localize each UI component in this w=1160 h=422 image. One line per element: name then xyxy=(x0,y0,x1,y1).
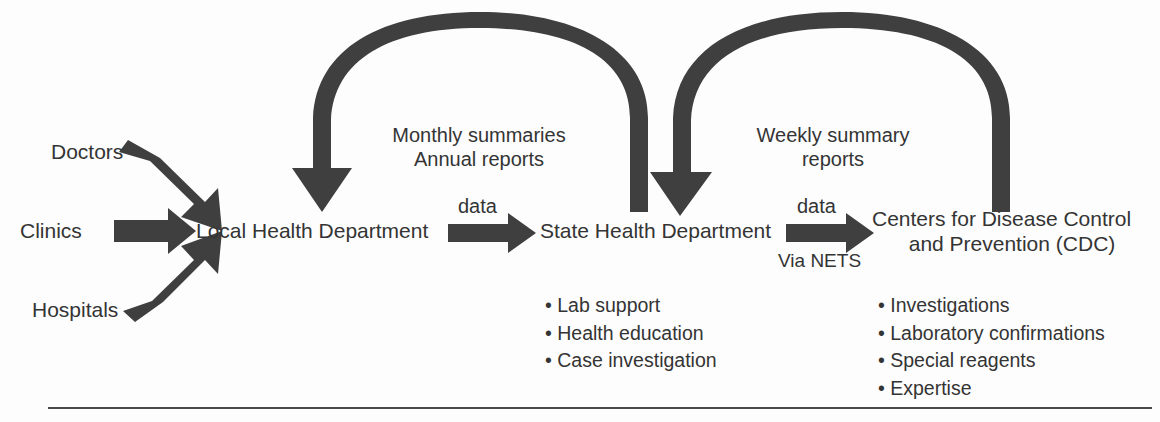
bullet-glyph: • xyxy=(878,377,885,399)
arc-label-cdc-to-state-line2: reports xyxy=(738,148,928,172)
flow-label-data-state-cdc: data xyxy=(797,195,836,219)
list-item-label: Laboratory confirmations xyxy=(890,322,1105,344)
list-item-label: Case investigation xyxy=(557,349,716,371)
node-label-cdc: Centers for Disease Control and Preventi… xyxy=(872,207,1152,257)
arc-label-cdc-to-state-text1: Weekly summary xyxy=(757,124,910,146)
list-item: • Special reagents xyxy=(878,347,1105,375)
source-label-hospitals: Hospitals xyxy=(32,298,118,323)
list-item-label: Expertise xyxy=(890,377,971,399)
arc-label-state-to-local-line1: Monthly summaries xyxy=(369,124,589,148)
bullet-glyph: • xyxy=(878,294,885,316)
bottom-divider xyxy=(48,407,1152,409)
arrow-local-to-state xyxy=(448,213,536,253)
arc-cdc-to-state xyxy=(650,12,1010,216)
source-label-doctors: Doctors xyxy=(51,140,123,165)
list-item-label: Investigations xyxy=(890,294,1009,316)
node-label-state-health-department: State Health Department xyxy=(540,219,771,244)
source-label-clinics: Clinics xyxy=(20,219,82,244)
flow-label-data-local-state: data xyxy=(458,195,497,219)
arrow-clinics-to-local xyxy=(114,208,196,254)
arrow-hospitals-to-local xyxy=(123,231,222,322)
node-label-cdc-line1: Centers for Disease Control xyxy=(872,207,1152,232)
arc-label-cdc-to-state: Weekly summary reports xyxy=(738,124,928,171)
arc-label-cdc-to-state-line1: Weekly summary xyxy=(738,124,928,148)
bullet-glyph: • xyxy=(545,294,552,316)
list-item: • Health education xyxy=(545,320,717,348)
list-item-label: Health education xyxy=(557,322,703,344)
arc-label-state-to-local-line2: Annual reports xyxy=(369,148,589,172)
flow-sublabel-via-nets: Via NETS xyxy=(778,250,861,272)
service-list-cdc: • Investigations • Laboratory confirmati… xyxy=(878,292,1105,403)
node-label-cdc-line2: and Prevention (CDC) xyxy=(872,232,1152,257)
bullet-glyph: • xyxy=(878,349,885,371)
arc-label-state-to-local: Monthly summaries Annual reports xyxy=(369,124,589,171)
list-item-label: Special reagents xyxy=(890,349,1035,371)
list-item: • Investigations xyxy=(878,292,1105,320)
list-item: • Expertise xyxy=(878,375,1105,403)
list-item: • Lab support xyxy=(545,292,717,320)
bullet-glyph: • xyxy=(878,322,885,344)
bullet-glyph: • xyxy=(545,349,552,371)
arrow-state-to-cdc xyxy=(786,213,874,253)
list-item-label: Lab support xyxy=(557,294,660,316)
list-item: • Case investigation xyxy=(545,347,717,375)
node-label-local-health-department: Local Health Department xyxy=(196,219,428,244)
service-list-state: • Lab support • Health education • Case … xyxy=(545,292,717,375)
diagram-canvas: Doctors Clinics Hospitals Local Health D… xyxy=(0,0,1160,422)
arrow-doctors-to-local xyxy=(119,140,222,231)
list-item: • Laboratory confirmations xyxy=(878,320,1105,348)
bullet-glyph: • xyxy=(545,322,552,344)
arc-state-to-local xyxy=(292,12,648,212)
